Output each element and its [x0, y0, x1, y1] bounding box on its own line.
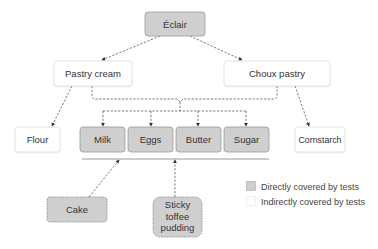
node-butter[interactable]: Butter	[176, 127, 221, 152]
node-pudding-line-3: pudding	[161, 222, 195, 233]
legend-swatch-direct	[247, 182, 256, 191]
node-pastry-cream[interactable]: Pastry cream	[54, 61, 132, 86]
node-eclair-label: Éclair	[163, 19, 187, 30]
node-pudding-line-2: toffee	[166, 211, 190, 222]
edge-cake-group	[89, 160, 119, 197]
node-sugar[interactable]: Sugar	[224, 127, 269, 152]
legend-swatch-indirect	[247, 197, 256, 206]
edge-pastry-cream-flour	[52, 86, 72, 126]
node-milk-label: Milk	[94, 134, 111, 145]
node-eclair[interactable]: Éclair	[145, 12, 205, 36]
node-flour-label: Flour	[27, 134, 49, 145]
node-cornstarch[interactable]: Cornstarch	[295, 127, 345, 152]
node-cornstarch-label: Cornstarch	[298, 135, 341, 145]
legend-label-direct: Directly covered by tests	[261, 182, 360, 192]
dependency-diagram: Éclair Pastry cream Choux pastry Flour M…	[0, 0, 378, 249]
node-butter-label: Butter	[186, 134, 211, 145]
legend: Directly covered by tests Indirectly cov…	[247, 182, 366, 207]
node-pastry-cream-label: Pastry cream	[65, 68, 121, 79]
edge-eclair-pastry-cream	[102, 36, 160, 60]
connectors	[52, 36, 309, 197]
node-cake-label: Cake	[66, 204, 88, 215]
edge-choux-pastry-cornstarch	[295, 86, 309, 126]
node-cake[interactable]: Cake	[47, 197, 107, 222]
legend-item-indirect: Indirectly covered by tests	[247, 197, 366, 207]
node-eggs[interactable]: Eggs	[128, 127, 173, 152]
node-eggs-label: Eggs	[140, 134, 162, 145]
legend-item-direct: Directly covered by tests	[247, 182, 360, 192]
legend-label-indirect: Indirectly covered by tests	[261, 197, 366, 207]
node-sugar-label: Sugar	[234, 134, 259, 145]
edge-bracket-merge	[92, 86, 277, 102]
edge-eclair-choux-pastry	[190, 36, 242, 60]
node-choux-pastry-label: Choux pastry	[249, 68, 305, 79]
node-flour[interactable]: Flour	[15, 127, 60, 152]
node-sticky-toffee-pudding[interactable]: Sticky toffee pudding	[153, 197, 202, 237]
node-choux-pastry[interactable]: Choux pastry	[224, 61, 330, 86]
node-pudding-line-1: Sticky	[165, 199, 191, 210]
node-milk[interactable]: Milk	[80, 127, 125, 152]
